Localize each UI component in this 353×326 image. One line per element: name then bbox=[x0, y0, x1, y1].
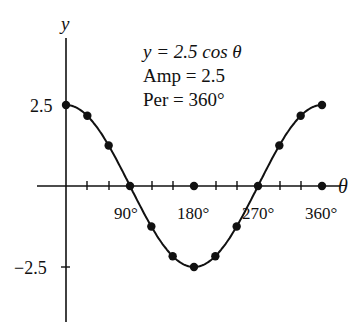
amplitude-label: Amp = 2.5 bbox=[143, 66, 225, 85]
data-point bbox=[318, 101, 326, 109]
data-point bbox=[275, 141, 283, 149]
data-point bbox=[126, 182, 134, 190]
y-tick-label-neg: −2.5 bbox=[14, 259, 47, 277]
data-point bbox=[147, 222, 155, 230]
data-point bbox=[190, 263, 198, 271]
x-tick-label-270: 270° bbox=[242, 205, 274, 222]
data-point bbox=[211, 252, 219, 260]
x-axis-label: θ bbox=[338, 176, 348, 196]
data-point bbox=[254, 182, 262, 190]
x-tick-label-180: 180° bbox=[177, 205, 209, 222]
data-point bbox=[168, 252, 176, 260]
data-point bbox=[104, 141, 112, 149]
x-tick-label-360: 360° bbox=[305, 205, 337, 222]
y-axis-label: y bbox=[61, 14, 69, 33]
x-tick-label-90: 90° bbox=[114, 205, 138, 222]
eq-text: y = 2.5 cos θ bbox=[143, 41, 242, 62]
period-label: Per = 360° bbox=[143, 90, 225, 109]
equation-label: y = 2.5 cos θ bbox=[143, 42, 242, 61]
data-point bbox=[296, 111, 304, 119]
data-point bbox=[62, 101, 70, 109]
y-tick-label-pos: 2.5 bbox=[30, 97, 53, 115]
data-point bbox=[232, 222, 240, 230]
data-point bbox=[83, 111, 91, 119]
